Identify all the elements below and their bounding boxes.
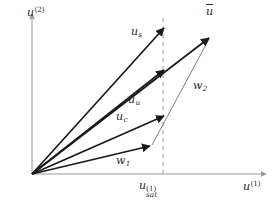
vector-label-uu: uu	[128, 94, 140, 106]
vector-label-us: us	[131, 26, 142, 38]
y-axis-label-superscript: (2)	[34, 5, 44, 14]
vector-us	[32, 28, 164, 174]
vector-label-uu-subscript: u	[135, 98, 140, 107]
vector-diagram-figure: u(2) u(1) u(1)sat us uu uc w1 w2 u	[0, 0, 278, 208]
vector-label-w2-subscript: 2	[203, 84, 208, 93]
vector-label-w1: w1	[116, 155, 130, 167]
saturation-label-base: u	[139, 179, 146, 192]
saturation-label-subscript: sat	[146, 191, 157, 198]
saturation-limit-label: u(1)sat	[139, 180, 146, 191]
y-axis-label: u(2)	[27, 6, 45, 18]
vector-label-w2-base: w	[193, 79, 202, 92]
x-axis-label: u(1)	[243, 180, 261, 192]
vector-label-w1-subscript: 1	[126, 159, 131, 168]
vector-uc	[32, 116, 164, 174]
vector-label-w1-base: w	[116, 154, 125, 167]
vector-label-uc: uc	[116, 111, 127, 123]
vector-label-uc-subscript: c	[123, 115, 127, 124]
vector-label-w2: w2	[193, 80, 207, 92]
vector-label-ubar: u	[206, 6, 213, 17]
vector-label-ubar-base: u	[206, 6, 213, 17]
vector-label-us-subscript: s	[138, 30, 142, 39]
x-axis-label-superscript: (1)	[250, 179, 260, 188]
